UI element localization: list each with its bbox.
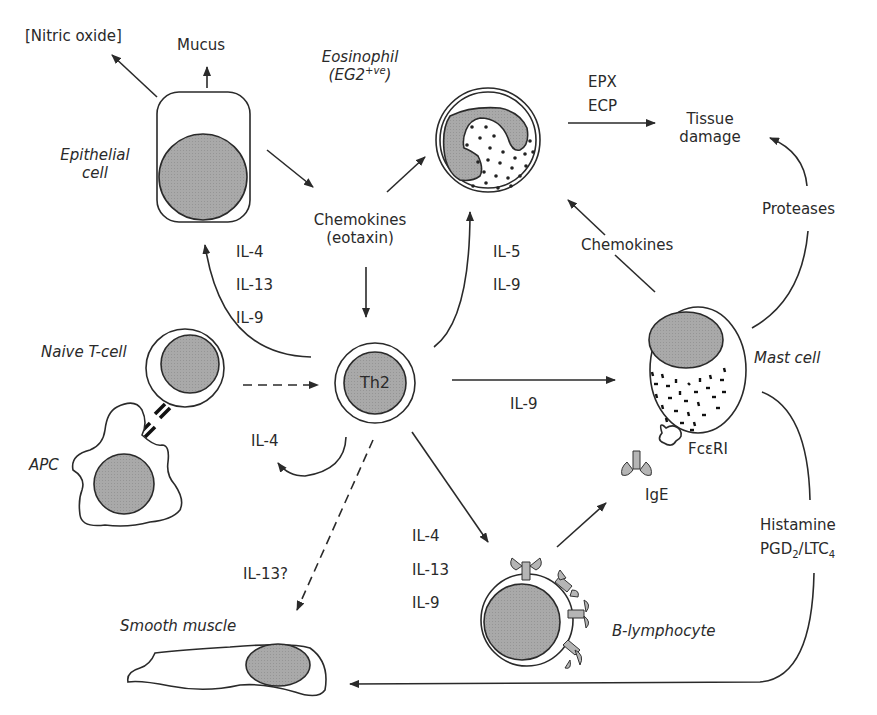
arrow-th2-to-b-cell	[412, 432, 488, 542]
ige-label: IgE	[645, 486, 668, 504]
cytokine-il13-epithelial: IL-13	[236, 276, 273, 294]
arrow-th2-to-epithelial	[205, 245, 311, 357]
arrow-th2-to-smooth-muscle	[297, 440, 373, 610]
chemokines-eotaxin-label: Chemokines (eotaxin)	[300, 211, 420, 247]
line-mast-to-histamine	[762, 392, 810, 500]
arrow-b-cell-to-ige	[557, 503, 606, 547]
cytokine-il5-eosinophil: IL-5	[493, 243, 520, 261]
cytokine-il4-autocrine: IL-4	[251, 432, 278, 450]
cytokine-il13-smooth-muscle: IL-13?	[243, 565, 288, 583]
eosinophil-cell-icon	[436, 88, 540, 192]
b-lymphocyte-label: B-lymphocyte	[612, 622, 716, 640]
arrow-chemokines-to-eosinophil	[387, 157, 425, 192]
arrow-proteases-to-tissue-damage	[770, 138, 807, 186]
cytokine-il9-eosinophil: IL-9	[493, 276, 520, 294]
cytokine-il13-b-cell: IL-13	[412, 561, 449, 579]
tissue-damage-line2: damage	[670, 128, 750, 146]
naive-t-cell-icon	[146, 329, 224, 407]
proteases-label: Proteases	[762, 200, 835, 218]
nitric-oxide-label: [Nitric oxide]	[25, 27, 122, 45]
cytokine-il9-mast: IL-9	[510, 395, 537, 413]
eosinophil-label: Eosinophil (EG2+ve)	[300, 48, 420, 84]
epithelial-label-line2: cell	[50, 164, 140, 182]
pgd2-ltc4-label: PGD2/LTC4	[760, 540, 835, 558]
apc-label: APC	[29, 456, 59, 474]
th2-label: Th2	[345, 374, 405, 392]
cytokine-il9-epithelial: IL-9	[236, 309, 263, 327]
eosinophil-label-line1: Eosinophil	[300, 48, 420, 66]
fceri-label: FcεRI	[688, 440, 728, 458]
eosinophil-label-line2: (EG2+ve)	[300, 66, 420, 84]
arrow-autocrine-il4	[278, 437, 346, 476]
smooth-muscle-cell-icon	[128, 644, 326, 696]
chemokines-mast-label: Chemokines	[581, 236, 673, 254]
arrow-to-chemokines	[267, 150, 313, 187]
epx-label: EPX	[588, 73, 617, 91]
apc-cell-icon	[73, 403, 182, 526]
arrow-histamine-to-smooth-muscle	[350, 573, 814, 684]
mucus-label: Mucus	[177, 36, 225, 54]
arrow-chemokines-to-eosinophil-from-mast	[568, 200, 605, 235]
mast-cell-label: Mast cell	[754, 349, 820, 367]
line-mast-to-proteases	[752, 231, 808, 328]
arrow-th2-to-eosinophil	[434, 212, 470, 347]
smooth-muscle-label: Smooth muscle	[120, 617, 236, 635]
tissue-damage-line1: Tissue	[670, 110, 750, 128]
histamine-label: Histamine	[760, 516, 836, 534]
chemokines-line1: Chemokines	[300, 211, 420, 229]
naive-t-cell-label: Naive T-cell	[41, 343, 127, 361]
eotaxin-line2: (eotaxin)	[300, 229, 420, 247]
line-mast-to-chemokines	[615, 255, 655, 292]
b-lymphocyte-cell-icon	[481, 558, 589, 668]
ecp-label: ECP	[588, 97, 617, 115]
cytokine-il9-b-cell: IL-9	[412, 594, 439, 612]
cytokine-il4-epithelial: IL-4	[236, 243, 263, 261]
cytokine-il4-b-cell: IL-4	[412, 527, 439, 545]
ige-antibody-icon	[622, 451, 652, 475]
arrow-to-nitric-oxide	[112, 55, 157, 97]
epithelial-label-line1: Epithelial	[50, 146, 140, 164]
th2-immune-pathway-diagram: [Nitric oxide] Mucus Epithelial cell Eos…	[0, 0, 877, 715]
mast-cell-icon	[649, 307, 746, 445]
epithelial-cell-icon	[157, 92, 250, 222]
epithelial-cell-label: Epithelial cell	[50, 146, 140, 182]
tissue-damage-label: Tissue damage	[670, 110, 750, 146]
